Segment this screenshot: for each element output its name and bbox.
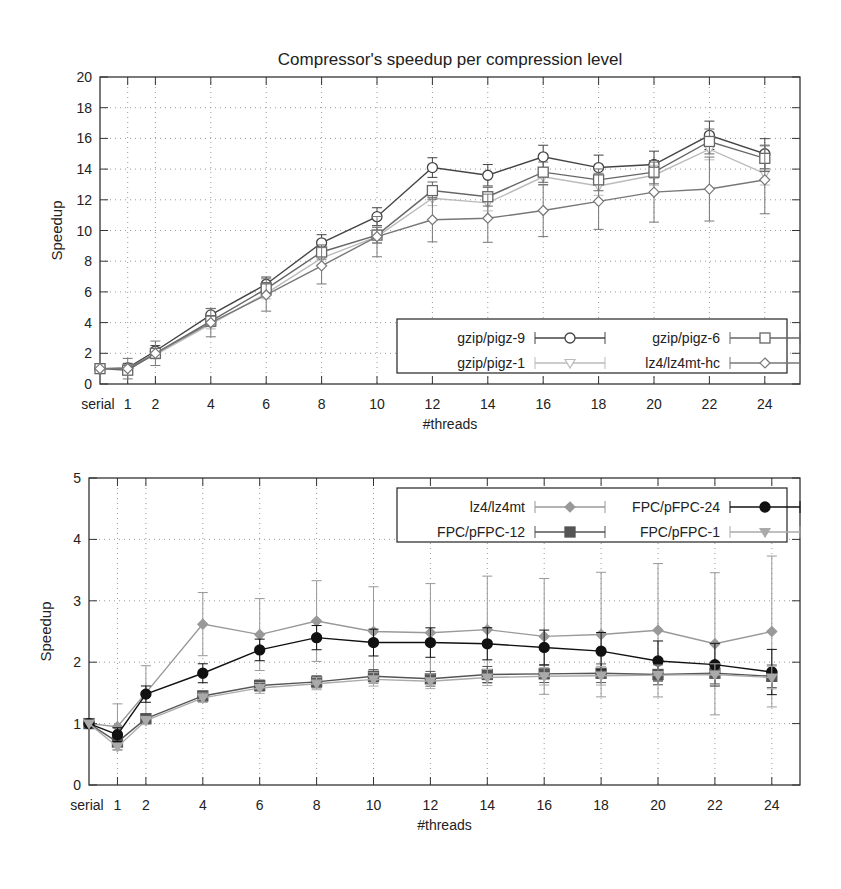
y-tick-label: 10 [76,223,92,239]
circle-marker-icon [482,639,492,649]
x-axis-label: #threads [423,416,477,432]
chart-2: 012345serial124681012141618202224#thread… [37,470,800,833]
legend-label: FPC/pFPC-24 [632,499,720,515]
x-tick-label: 12 [423,797,439,813]
circle-marker-icon [141,689,151,699]
legend-label: FPC/pFPC-12 [437,524,525,540]
x-tick-label: 24 [757,396,773,412]
x-tick-label: 20 [650,797,666,813]
y-tick-label: 20 [76,69,92,85]
x-tick-label: 6 [262,396,270,412]
x-tick-label: 10 [369,396,385,412]
y-axis-label: Speedup [48,200,65,260]
square-marker-icon [704,136,714,146]
figure: Compressor's speedup per compression lev… [0,0,841,889]
y-tick-label: 4 [84,315,92,331]
circle-marker-icon [483,170,493,180]
circle-marker-icon [538,152,548,162]
diamond-marker-icon [649,187,659,197]
circle-marker-icon [255,645,265,655]
circle-marker-icon [369,638,379,648]
diamond-marker-icon [427,215,437,225]
x-tick-label: 8 [313,797,321,813]
legend-label: gzip/pigz-1 [457,355,525,371]
x-tick-label: 4 [207,396,215,412]
diamond-marker-icon [594,196,604,206]
legend-box [397,319,787,373]
diamond-marker-icon [317,261,327,271]
x-tick-label: 2 [152,396,160,412]
y-tick-label: 0 [73,777,81,793]
x-tick-label: 24 [764,797,780,813]
diamond-marker-icon [312,616,322,626]
x-tick-label: 8 [318,396,326,412]
x-tick-label: 1 [114,797,122,813]
y-tick-label: 5 [73,470,81,486]
legend-label: lz4/lz4mt-hc [645,355,720,371]
y-tick-label: 0 [84,376,92,392]
square-marker-icon [760,333,770,343]
square-marker-icon [538,167,548,177]
chart-canvas: Compressor's speedup per compression lev… [0,0,841,889]
y-tick-label: 6 [84,284,92,300]
legend-label: gzip/pigz-6 [652,330,720,346]
x-tick-label: 10 [366,797,382,813]
x-axis-label: #threads [417,817,471,833]
x-tick-label: 14 [480,797,496,813]
y-tick-label: 16 [76,130,92,146]
x-tick-label: 20 [646,396,662,412]
x-tick-label: 6 [256,797,264,813]
diamond-marker-icon [653,625,663,635]
circle-marker-icon [653,656,663,666]
square-marker-icon [427,186,437,196]
x-tick-label: 18 [593,797,609,813]
x-tick-label: 22 [702,396,718,412]
y-axis-label: Speedup [37,601,54,661]
y-tick-label: 18 [76,100,92,116]
y-tick-label: 2 [73,654,81,670]
y-tick-label: 2 [84,345,92,361]
diamond-marker-icon [704,184,714,194]
y-tick-label: 3 [73,593,81,609]
diamond-marker-icon [538,206,548,216]
legend-label: lz4/lz4mt [470,499,525,515]
x-tick-label: 16 [536,797,552,813]
legend-label: FPC/pFPC-1 [640,524,720,540]
legend: lz4/lz4mtFPC/pFPC-12FPC/pFPC-24FPC/pFPC-… [397,488,800,542]
circle-marker-icon [312,633,322,643]
x-tick-label: 14 [480,396,496,412]
diamond-marker-icon [760,175,770,185]
legend-label: gzip/pigz-9 [457,330,525,346]
x-tick-label: 12 [425,396,441,412]
circle-marker-icon [427,163,437,173]
x-tick-label: 2 [142,797,150,813]
y-tick-label: 12 [76,192,92,208]
circle-marker-icon [565,333,575,343]
x-tick-label: serial [70,797,103,813]
diamond-marker-icon [483,213,493,223]
circle-marker-icon [112,730,122,740]
circle-marker-icon [425,638,435,648]
chart-1: Compressor's speedup per compression lev… [48,50,800,432]
x-tick-label: 18 [591,396,607,412]
x-tick-label: serial [81,396,114,412]
diamond-marker-icon [767,627,777,637]
diamond-marker-icon [255,630,265,640]
x-tick-label: 16 [535,396,551,412]
circle-marker-icon [198,668,208,678]
x-tick-label: 4 [199,797,207,813]
y-tick-label: 1 [73,716,81,732]
y-tick-label: 14 [76,161,92,177]
circle-marker-icon [596,646,606,656]
square-marker-icon [565,527,575,537]
chart-title: Compressor's speedup per compression lev… [278,50,622,69]
y-tick-label: 8 [84,253,92,269]
y-tick-label: 4 [73,531,81,547]
circle-marker-icon [539,642,549,652]
x-tick-label: 22 [707,797,723,813]
legend: gzip/pigz-9gzip/pigz-1gzip/pigz-6lz4/lz4… [397,319,800,373]
circle-marker-icon [760,502,770,512]
x-tick-label: 1 [124,396,132,412]
